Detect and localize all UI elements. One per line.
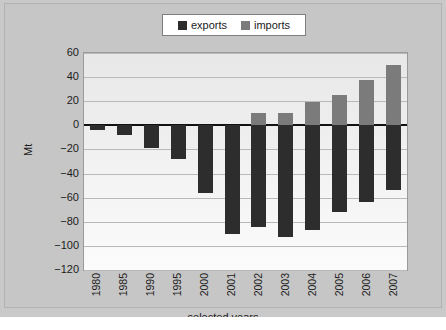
bar-exports bbox=[144, 125, 159, 148]
x-tick-label: 2000 bbox=[198, 273, 210, 296]
y-axis-ticks: 6040200−20−40−60−80−100−120 bbox=[29, 52, 79, 271]
bar-exports bbox=[359, 125, 374, 202]
legend-label-imports: imports bbox=[254, 20, 290, 31]
x-tick-label: 2004 bbox=[306, 273, 318, 296]
bar-exports bbox=[332, 125, 347, 212]
bar-imports bbox=[359, 80, 374, 126]
bar-exports bbox=[386, 125, 401, 190]
x-tick-label: 2006 bbox=[360, 273, 372, 296]
y-tick-label: −120 bbox=[33, 263, 79, 275]
x-axis-ticks: 1980198519901995200020012002200320042005… bbox=[83, 273, 408, 309]
chart-legend: exports imports bbox=[162, 14, 306, 36]
y-tick-label: −80 bbox=[33, 215, 79, 227]
x-tick-label: 2001 bbox=[225, 273, 237, 296]
legend-item-imports: imports bbox=[241, 20, 290, 31]
caption-strip bbox=[0, 317, 446, 330]
y-tick-label: −100 bbox=[33, 239, 79, 251]
bar-exports bbox=[305, 125, 320, 230]
bar-exports bbox=[251, 125, 266, 226]
bar-exports bbox=[171, 125, 186, 159]
legend-label-exports: exports bbox=[191, 20, 227, 31]
x-tick-label: 1995 bbox=[171, 273, 183, 296]
y-tick-label: 0 bbox=[33, 118, 79, 130]
bar-imports bbox=[278, 113, 293, 125]
y-tick-label: −60 bbox=[33, 191, 79, 203]
x-tick-label: 1985 bbox=[117, 273, 129, 296]
bar-imports bbox=[251, 113, 266, 125]
y-tick-label: −20 bbox=[33, 142, 79, 154]
x-tick-label: 1980 bbox=[90, 273, 102, 296]
gridline bbox=[84, 246, 407, 247]
legend-swatch-exports bbox=[178, 21, 187, 30]
bar-imports bbox=[332, 95, 347, 125]
bar-exports bbox=[117, 125, 132, 135]
bar-exports bbox=[90, 125, 105, 130]
bar-imports bbox=[305, 102, 320, 125]
gridline bbox=[84, 270, 407, 271]
bar-exports bbox=[198, 125, 213, 193]
bar-imports bbox=[386, 65, 401, 125]
gridline bbox=[84, 222, 407, 223]
legend-item-exports: exports bbox=[178, 20, 227, 31]
bar-exports bbox=[278, 125, 293, 237]
x-tick-label: 2007 bbox=[387, 273, 399, 296]
legend-swatch-imports bbox=[241, 21, 250, 30]
gridline bbox=[84, 53, 407, 54]
chart-figure: exports imports Mt 6040200−20−40−60−80−1… bbox=[0, 0, 446, 330]
y-tick-label: 40 bbox=[33, 70, 79, 82]
y-tick-label: −40 bbox=[33, 167, 79, 179]
x-tick-label: 2002 bbox=[252, 273, 264, 296]
y-tick-label: 20 bbox=[33, 94, 79, 106]
plot-area bbox=[83, 52, 408, 271]
x-tick-label: 2005 bbox=[333, 273, 345, 296]
bar-exports bbox=[225, 125, 240, 234]
chart-frame: exports imports Mt 6040200−20−40−60−80−1… bbox=[4, 3, 442, 308]
gridline bbox=[84, 77, 407, 78]
x-tick-label: 2003 bbox=[279, 273, 291, 296]
y-tick-label: 60 bbox=[33, 46, 79, 58]
x-tick-label: 1990 bbox=[144, 273, 156, 296]
